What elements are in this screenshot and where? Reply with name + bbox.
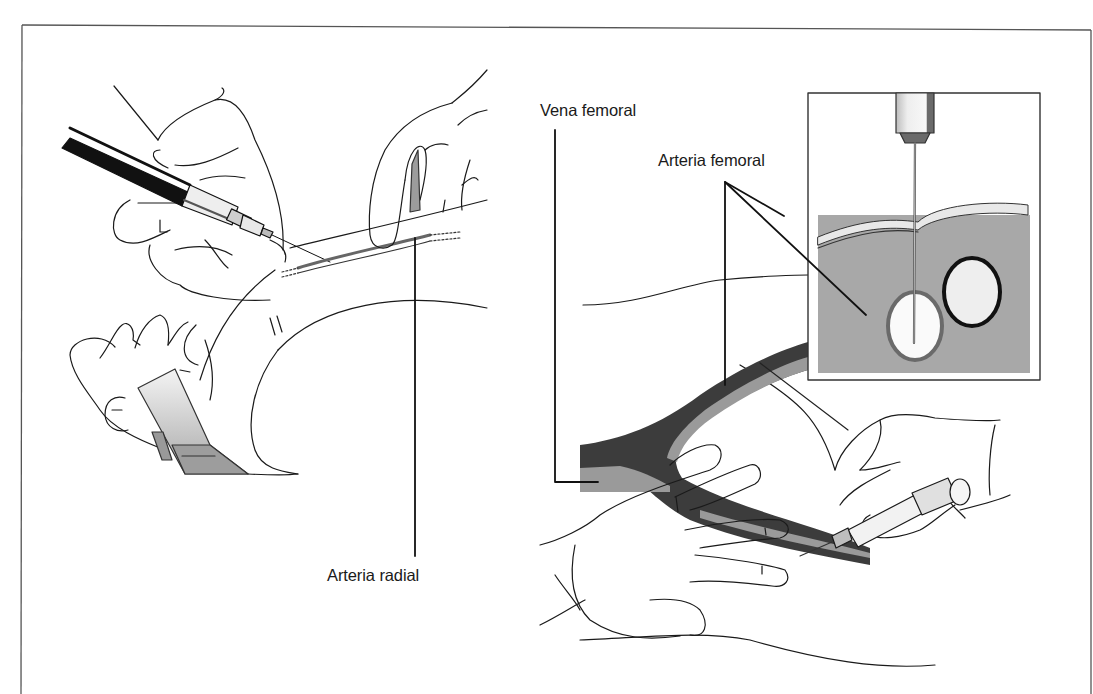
leader-line-vena-femoral bbox=[555, 130, 598, 482]
syringe-femoral bbox=[800, 478, 970, 556]
label-arteria-femoral: Arteria femoral bbox=[658, 151, 765, 170]
left-panel-radial bbox=[62, 70, 487, 556]
cross-section-inset bbox=[808, 93, 1040, 380]
needle-hub bbox=[896, 93, 934, 133]
syringe-radial bbox=[62, 128, 330, 262]
right-panel-femoral bbox=[540, 93, 1040, 666]
forearm-outline bbox=[200, 200, 487, 474]
medical-illustration: Arteria radial Vena femoral Arteria femo… bbox=[0, 0, 1093, 694]
inguinal-contour bbox=[583, 275, 808, 305]
thigh-lower-contour bbox=[580, 635, 935, 666]
femoral-right-hand bbox=[835, 415, 1010, 538]
label-vena-femoral: Vena femoral bbox=[540, 101, 636, 120]
needle-hub-tip bbox=[900, 133, 930, 143]
label-arteria-radial: Arteria radial bbox=[327, 566, 419, 585]
femoral-vein-cross-section bbox=[944, 258, 1000, 326]
left-gloved-hand-palpating bbox=[369, 70, 487, 248]
radial-artery-exposed-segment bbox=[410, 150, 420, 212]
adhesive-tape bbox=[138, 369, 248, 474]
wrist-lower-contour bbox=[248, 474, 298, 475]
